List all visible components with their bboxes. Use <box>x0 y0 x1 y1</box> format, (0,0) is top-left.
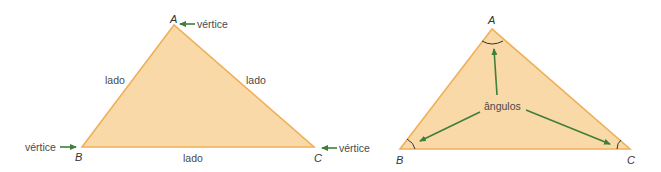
vertex-a-label: A <box>169 13 177 25</box>
left-triangle: A B C vértice vértice vértice lado lado … <box>25 13 370 164</box>
side-bc-label: lado <box>183 152 203 164</box>
vertex-a-caption: vértice <box>197 18 228 30</box>
triangle-diagram: A B C vértice vértice vértice lado lado … <box>0 0 661 172</box>
vertex-b-label: B <box>75 151 82 163</box>
vertex-b-label: B <box>396 154 403 166</box>
vertex-b-caption: vértice <box>25 141 56 153</box>
side-ac-label: lado <box>246 74 266 86</box>
vertex-c-caption: vértice <box>339 142 370 154</box>
vertex-c-label: C <box>314 152 322 164</box>
side-ab-label: lado <box>105 74 125 86</box>
right-triangle: A B C ângulos <box>396 14 635 166</box>
triangle-abc-shape <box>82 25 314 147</box>
angles-caption: ângulos <box>484 100 521 112</box>
triangle-abc-angles-shape <box>400 29 630 149</box>
vertex-c-label: C <box>627 154 635 166</box>
vertex-a-label: A <box>487 14 495 26</box>
